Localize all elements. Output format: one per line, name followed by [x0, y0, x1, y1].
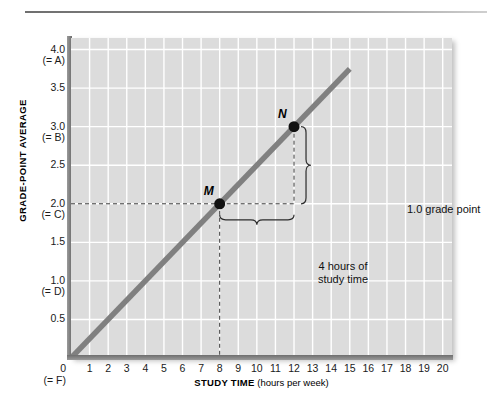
- point-label-m: M: [204, 184, 214, 198]
- y-axis-tick-3-0: 3.0(= B): [5, 121, 65, 143]
- y-tick-value: 1.5: [5, 236, 65, 247]
- y-axis-tick-2-5: 2.5: [5, 159, 65, 170]
- x-axis-tick-20: 20: [431, 362, 455, 374]
- y-axis-tick-3-5: 3.5: [5, 82, 65, 93]
- y-tick-grade: (= C): [5, 209, 65, 220]
- annotation-study-time-line1: 4 hours of: [319, 260, 368, 272]
- y-tick-grade: (= A): [5, 55, 65, 66]
- figure-container: GRADE-POINT AVERAGE 4.0(= A)3.53.0(= B)2…: [0, 0, 487, 397]
- point-label-n: N: [278, 107, 287, 121]
- annotation-grade-point: 1.0 grade point: [407, 203, 480, 216]
- y-axis-tick-0-5: 0.5: [5, 313, 65, 324]
- data-line: [71, 69, 350, 358]
- x-axis-title-unit: (hours per week): [255, 377, 329, 388]
- y-tick-value: 0.5: [5, 313, 65, 324]
- data-point-m: [214, 198, 225, 209]
- y-tick-grade: (= B): [5, 132, 65, 143]
- x-axis-title-main: STUDY TIME: [194, 377, 254, 388]
- y-axis-tick-2-0: 2.0(= C): [5, 198, 65, 220]
- y-axis-tick-4-0: 4.0(= A): [5, 44, 65, 66]
- annotation-study-time: 4 hours of study time: [297, 260, 389, 285]
- top-divider-rule: [25, 11, 487, 13]
- x-axis-title: STUDY TIME (hours per week): [71, 377, 452, 388]
- annotation-study-time-line2: study time: [318, 273, 368, 285]
- y-axis-tick-1-5: 1.5: [5, 236, 65, 247]
- y-tick-grade: (= D): [5, 286, 65, 297]
- y-tick-value: 4.0: [5, 44, 65, 55]
- y-tick-value: 2.5: [5, 159, 65, 170]
- plot-canvas: [71, 38, 452, 358]
- x-axis-tick-labels: 1234567891011121314151617181920: [0, 362, 487, 378]
- x-axis-spine: [67, 355, 453, 360]
- y-tick-value: 3.5: [5, 82, 65, 93]
- y-axis-tick-labels: 4.0(= A)3.53.0(= B)2.52.0(= C)1.51.0(= D…: [0, 0, 65, 397]
- plot-area: M N 1.0 grade point 4 hours of study tim…: [71, 38, 452, 358]
- data-point-n: [289, 121, 300, 132]
- y-axis-tick-1-0: 1.0(= D): [5, 275, 65, 297]
